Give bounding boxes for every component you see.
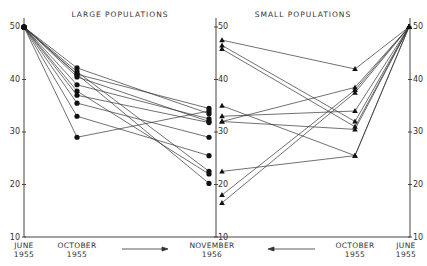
data-point: [206, 153, 211, 158]
x-label-june-right: JUNE: [395, 241, 415, 250]
x-label-october-right-year: 1955: [345, 250, 365, 259]
x-label-november-year: 1956: [202, 250, 222, 259]
data-point: [74, 135, 79, 140]
data-markers: [21, 24, 411, 205]
data-point: [219, 37, 225, 42]
right-y-label-50: 50: [413, 22, 423, 31]
arrow-right-icon: [122, 247, 168, 251]
data-point: [74, 72, 79, 77]
data-point: [74, 114, 79, 119]
data-point: [21, 24, 26, 29]
arrow-left-icon: [268, 247, 315, 251]
large-populations-title: LARGE POPULATIONS: [71, 10, 168, 19]
axes: [24, 18, 410, 237]
x-label-october-right: OCTOBER: [336, 241, 375, 250]
population-chart: LARGE POPULATIONS SMALL POPULATIONS 50 4…: [0, 0, 427, 266]
x-label-october-left: OCTOBER: [58, 241, 97, 250]
y-ticks: [22, 27, 412, 237]
data-point: [206, 171, 211, 176]
x-label-june-right-year: 1955: [396, 250, 416, 259]
x-label-november: NOVEMBER: [189, 241, 234, 250]
data-point: [352, 108, 358, 113]
x-label-october-left-year: 1955: [67, 250, 87, 259]
y-label-20: 20: [10, 180, 20, 189]
data-point: [219, 200, 225, 205]
data-point: [206, 181, 211, 186]
mid-y-label-50: 50: [218, 22, 228, 31]
data-point: [352, 126, 358, 131]
small-populations-title: SMALL POPULATIONS: [255, 10, 352, 19]
x-label-june-left-year: 1955: [14, 250, 34, 259]
data-point: [206, 135, 211, 140]
data-point: [219, 103, 225, 108]
data-point: [219, 192, 225, 197]
right-y-label-20: 20: [413, 180, 423, 189]
right-y-label-40: 40: [413, 75, 423, 84]
mid-y-label-30: 30: [218, 127, 228, 136]
x-label-june-left: JUNE: [13, 241, 33, 250]
mid-y-label-20: 20: [218, 180, 228, 189]
data-point: [206, 120, 211, 125]
y-label-40: 40: [10, 75, 20, 84]
data-point: [219, 113, 225, 118]
data-point: [74, 82, 79, 87]
data-point: [352, 119, 358, 124]
right-y-label-30: 30: [413, 127, 423, 136]
data-point: [74, 93, 79, 98]
data-point: [74, 101, 79, 106]
y-label-30: 30: [10, 127, 20, 136]
mid-y-label-40: 40: [218, 75, 228, 84]
y-label-50: 50: [10, 22, 20, 31]
data-point: [206, 108, 211, 113]
